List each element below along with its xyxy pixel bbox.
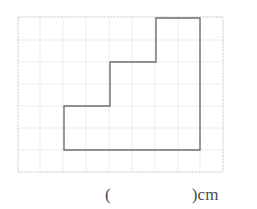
- grid-figure-svg: [0, 0, 257, 180]
- worksheet-page: ( )cm: [0, 0, 257, 209]
- answer-blank-input[interactable]: [111, 186, 192, 203]
- answer-row: ( )cm: [0, 180, 257, 209]
- figure-area: [0, 0, 257, 180]
- answer-expression: ( )cm: [105, 180, 257, 209]
- grid-lines: [18, 17, 223, 172]
- answer-close-paren-unit: )cm: [192, 186, 219, 203]
